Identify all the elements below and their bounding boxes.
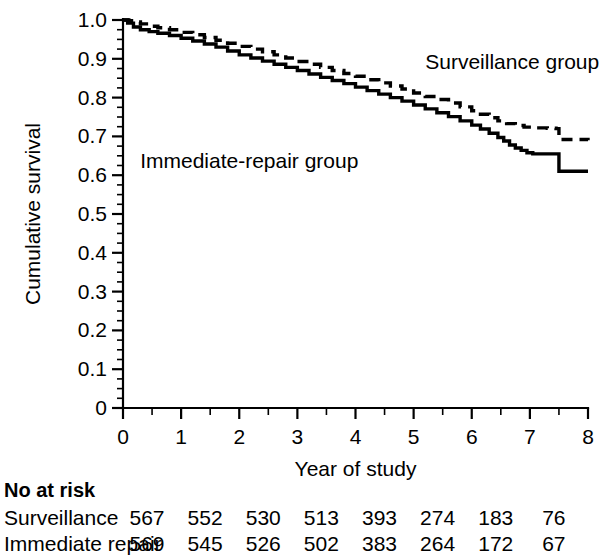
x-tick-label: 3 (292, 425, 304, 448)
risk-value: 530 (246, 506, 281, 529)
x-tick-label: 7 (524, 425, 536, 448)
y-tick-label: 0 (95, 396, 107, 419)
y-tick-label: 0.7 (78, 124, 107, 147)
y-axis-title: Cumulative survival (21, 123, 44, 305)
x-tick-label: 8 (582, 425, 594, 448)
kaplan-meier-survival-figure: 00.10.20.30.40.50.60.70.80.91.0012345678… (0, 0, 616, 558)
x-tick-label: 2 (233, 425, 245, 448)
risk-value: 552 (188, 506, 223, 529)
y-tick-label: 0.9 (78, 47, 107, 70)
x-tick-label: 0 (117, 425, 129, 448)
y-tick-label: 0.6 (78, 163, 107, 186)
y-tick-label: 0.5 (78, 202, 107, 225)
risk-value: 526 (246, 532, 281, 555)
risk-value: 274 (420, 506, 455, 529)
risk-value: 502 (304, 532, 339, 555)
risk-value: 513 (304, 506, 339, 529)
y-tick-label: 0.4 (78, 241, 108, 264)
x-axis-title: Year of study (295, 457, 417, 480)
y-tick-label: 0.2 (78, 318, 107, 341)
risk-value: 264 (420, 532, 455, 555)
risk-value: 67 (542, 532, 565, 555)
curve-label-immediate-repair: Immediate-repair group (140, 149, 358, 172)
risk-row-label-surveillance: Surveillance (4, 506, 118, 529)
risk-value: 172 (478, 532, 513, 555)
x-tick-label: 1 (175, 425, 187, 448)
risk-value: 383 (362, 532, 397, 555)
y-tick-label: 1.0 (78, 8, 107, 31)
curve-label-surveillance: Surveillance group (425, 50, 599, 73)
risk-value: 76 (542, 506, 565, 529)
risk-value: 545 (188, 532, 223, 555)
y-tick-label: 0.8 (78, 86, 107, 109)
risk-value: 569 (129, 532, 164, 555)
x-tick-label: 5 (408, 425, 420, 448)
x-tick-label: 6 (466, 425, 478, 448)
y-tick-label: 0.3 (78, 280, 107, 303)
risk-value: 393 (362, 506, 397, 529)
y-tick-label: 0.1 (78, 357, 107, 380)
risk-value: 567 (129, 506, 164, 529)
x-tick-label: 4 (350, 425, 362, 448)
risk-value: 183 (478, 506, 513, 529)
risk-table-heading: No at risk (4, 479, 96, 501)
